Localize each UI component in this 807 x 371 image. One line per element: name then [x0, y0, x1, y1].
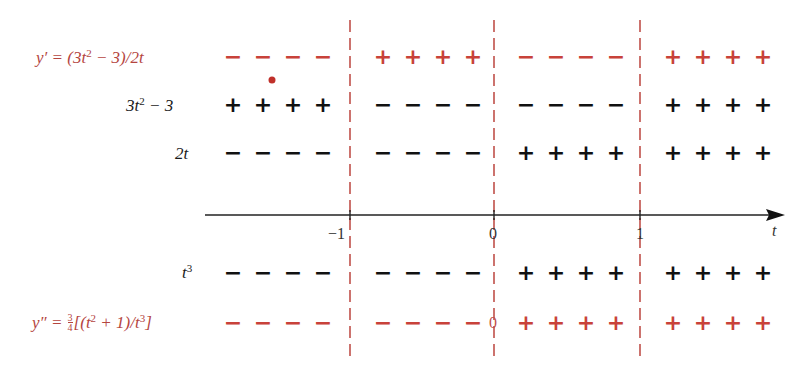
sign-3t2-minus-3-interval-0: +	[313, 94, 333, 116]
zero-marker: 0	[489, 314, 497, 332]
sign-y-prime-interval-2: −	[576, 46, 596, 68]
sign-y-prime-interval-3: +	[753, 46, 773, 68]
sign-3t2-minus-3-interval-1: −	[403, 94, 423, 116]
sign-y-double-prime-interval-1: −	[373, 312, 393, 334]
sign-t3-interval-0: −	[283, 262, 303, 284]
sign-3t2-minus-3-interval-1: −	[373, 94, 393, 116]
row-label-3t2-minus-3: 3t2 − 3	[126, 96, 173, 117]
sign-t3-interval-2: +	[606, 262, 626, 284]
sign-2t-interval-0: −	[223, 142, 243, 164]
axis-label-t: t	[772, 222, 776, 240]
sign-t3-interval-3: +	[723, 262, 743, 284]
sign-t3-interval-3: +	[663, 262, 683, 284]
sign-3t2-minus-3-interval-0: +	[253, 94, 273, 116]
sign-y-double-prime-interval-3: +	[693, 312, 713, 334]
sign-t3-interval-3: +	[693, 262, 713, 284]
sign-y-double-prime-interval-0: −	[253, 312, 273, 334]
sign-t3-interval-2: +	[576, 262, 596, 284]
tick-label-one: 1	[636, 225, 644, 243]
sign-y-double-prime-interval-1: −	[433, 312, 453, 334]
sign-y-double-prime-interval-0: −	[223, 312, 243, 334]
sign-y-double-prime-interval-3: +	[663, 312, 683, 334]
sign-y-prime-interval-0: −	[313, 46, 333, 68]
sign-y-prime-interval-0: −	[223, 46, 243, 68]
sign-chart: y′ = (3t2 − 3)/2t 3t2 − 3 2t t3 y″ = 34[…	[0, 0, 807, 371]
row-label-y-prime: y′ = (3t2 − 3)/2t	[36, 48, 144, 69]
sign-y-prime-interval-1: +	[373, 46, 393, 68]
sign-2t-interval-1: −	[463, 142, 483, 164]
sign-3t2-minus-3-interval-0: +	[283, 94, 303, 116]
sign-y-double-prime-interval-2: +	[606, 312, 626, 334]
sign-t3-interval-3: +	[753, 262, 773, 284]
sign-y-double-prime-interval-0: −	[283, 312, 303, 334]
sign-2t-interval-1: −	[433, 142, 453, 164]
sign-y-prime-interval-1: +	[403, 46, 423, 68]
sign-2t-interval-3: +	[723, 142, 743, 164]
sign-y-prime-interval-3: +	[723, 46, 743, 68]
sign-y-double-prime-interval-1: −	[463, 312, 483, 334]
sign-y-double-prime-interval-2: +	[576, 312, 596, 334]
sign-3t2-minus-3-interval-2: −	[606, 94, 626, 116]
sign-2t-interval-0: −	[313, 142, 333, 164]
tick-label-minus-one: −1	[328, 225, 345, 243]
sign-y-double-prime-interval-2: +	[516, 312, 536, 334]
sign-y-double-prime-interval-2: +	[546, 312, 566, 334]
sign-2t-interval-1: −	[403, 142, 423, 164]
sign-3t2-minus-3-interval-2: −	[546, 94, 566, 116]
sign-y-prime-interval-1: +	[433, 46, 453, 68]
sign-t3-interval-1: −	[403, 262, 423, 284]
sign-t3-interval-0: −	[223, 262, 243, 284]
sign-3t2-minus-3-interval-3: +	[663, 94, 683, 116]
tick-label-zero: 0	[489, 225, 497, 243]
sign-3t2-minus-3-interval-3: +	[723, 94, 743, 116]
sign-2t-interval-2: +	[606, 142, 626, 164]
sign-3t2-minus-3-interval-1: −	[463, 94, 483, 116]
sign-2t-interval-2: +	[516, 142, 536, 164]
sign-y-prime-interval-2: −	[516, 46, 536, 68]
sign-y-prime-interval-0: −	[283, 46, 303, 68]
sign-t3-interval-1: −	[433, 262, 453, 284]
sign-t3-interval-0: −	[313, 262, 333, 284]
sign-t3-interval-0: −	[253, 262, 273, 284]
sign-y-double-prime-interval-0: −	[313, 312, 333, 334]
sign-t3-interval-1: −	[373, 262, 393, 284]
stray-dot	[269, 77, 276, 84]
sign-y-double-prime-interval-3: +	[723, 312, 743, 334]
sign-3t2-minus-3-interval-2: −	[516, 94, 536, 116]
t-axis	[205, 209, 785, 221]
sign-3t2-minus-3-interval-0: +	[223, 94, 243, 116]
sign-t3-interval-1: −	[463, 262, 483, 284]
sign-y-double-prime-interval-1: −	[403, 312, 423, 334]
sign-3t2-minus-3-interval-1: −	[433, 94, 453, 116]
sign-3t2-minus-3-interval-3: +	[693, 94, 713, 116]
row-label-2t: 2t	[175, 144, 188, 164]
sign-y-prime-interval-1: +	[463, 46, 483, 68]
row-label-y-double-prime: y″ = 34[(t2 + 1)/t3]	[32, 313, 152, 334]
sign-t3-interval-2: +	[546, 262, 566, 284]
sign-2t-interval-2: +	[576, 142, 596, 164]
sign-y-prime-interval-0: −	[253, 46, 273, 68]
sign-t3-interval-2: +	[516, 262, 536, 284]
sign-y-double-prime-interval-3: +	[753, 312, 773, 334]
sign-2t-interval-0: −	[253, 142, 273, 164]
sign-2t-interval-2: +	[546, 142, 566, 164]
sign-y-prime-interval-3: +	[663, 46, 683, 68]
sign-2t-interval-3: +	[753, 142, 773, 164]
sign-3t2-minus-3-interval-3: +	[753, 94, 773, 116]
row-label-t3: t3	[182, 263, 192, 284]
sign-y-prime-interval-2: −	[606, 46, 626, 68]
sign-y-prime-interval-3: +	[693, 46, 713, 68]
sign-2t-interval-1: −	[373, 142, 393, 164]
sign-2t-interval-3: +	[693, 142, 713, 164]
sign-2t-interval-0: −	[283, 142, 303, 164]
sign-2t-interval-3: +	[663, 142, 683, 164]
sign-3t2-minus-3-interval-2: −	[576, 94, 596, 116]
sign-y-prime-interval-2: −	[546, 46, 566, 68]
